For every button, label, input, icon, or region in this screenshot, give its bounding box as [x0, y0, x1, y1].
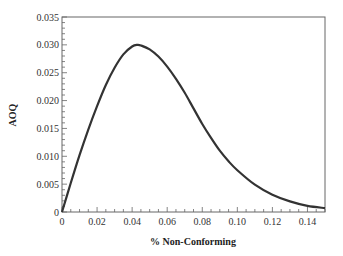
x-tick-label: 0.02: [88, 216, 106, 227]
plot-frame: [62, 17, 325, 212]
x-tick-label: 0.10: [229, 216, 247, 227]
x-axis-title: % Non-Conforming: [150, 236, 236, 247]
y-tick-label: 0.035: [37, 12, 60, 23]
y-tick-label: 0.020: [37, 95, 60, 106]
x-tick-label: 0.04: [123, 216, 141, 227]
x-tick-label: 0.06: [158, 216, 176, 227]
y-tick-label: 0.010: [37, 151, 60, 162]
x-tick-label: 0.14: [299, 216, 317, 227]
y-axis-title: AOQ: [7, 103, 18, 126]
y-tick-label: 0.015: [37, 123, 60, 134]
x-tick-label: 0: [60, 216, 65, 227]
y-tick-label: 0.025: [37, 67, 60, 78]
x-tick-label: 0.08: [194, 216, 212, 227]
aoq-curve: [62, 45, 325, 212]
y-tick-label: 0: [54, 207, 59, 218]
aoq-chart: 00.0050.0100.0150.0200.0250.0300.03500.0…: [0, 0, 343, 256]
y-tick-label: 0.005: [37, 179, 60, 190]
x-tick-label: 0.12: [264, 216, 282, 227]
y-tick-label: 0.030: [37, 39, 60, 50]
plot-area: 00.0050.0100.0150.0200.0250.0300.03500.0…: [37, 12, 326, 228]
